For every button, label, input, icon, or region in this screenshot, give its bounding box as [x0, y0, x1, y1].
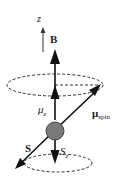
- spin-label: S: [25, 142, 31, 154]
- mu-spin-label: μspin: [92, 107, 110, 121]
- spin-diagram: z B μz μspin S Sz: [0, 0, 124, 191]
- b-field-label: B: [50, 33, 58, 45]
- lower-precession-cone-ellipse: [24, 154, 92, 172]
- z-axis-label: z: [36, 13, 41, 24]
- b-field-arrowhead-icon: [50, 49, 60, 64]
- s-z-label: Sz: [60, 145, 69, 160]
- s-z-arrowhead-icon: [51, 150, 60, 164]
- electron-particle: [46, 122, 64, 140]
- mu-spin-arrowhead-icon: [89, 84, 101, 96]
- mu-z-arrowhead-icon: [51, 85, 60, 99]
- mu-z-label: μz: [37, 103, 47, 118]
- z-axis-arrowhead-icon: [41, 27, 46, 33]
